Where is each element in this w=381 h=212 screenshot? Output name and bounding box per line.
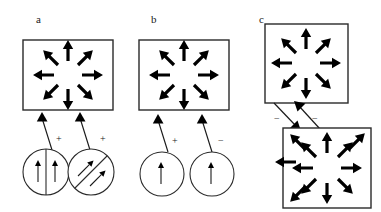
panel-a-connector-left	[37, 112, 52, 150]
panel-b-source-circle-right	[190, 152, 234, 196]
panel-b-source-circle-left	[140, 152, 184, 196]
panel-b-connector-right	[197, 114, 212, 152]
panel-a-connector-right	[75, 112, 90, 150]
diagram-vectors	[0, 0, 381, 212]
figure-root: a b c + + + − − − + − + − + +	[0, 0, 381, 212]
panel-b-connector-left	[153, 114, 168, 152]
